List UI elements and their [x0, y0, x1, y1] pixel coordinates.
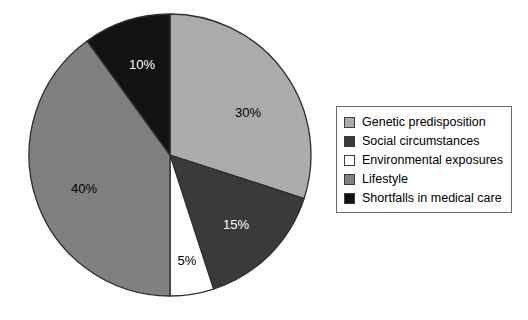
pie-chart-figure: 30%15%5%40%10% Genetic predisposition So… — [0, 0, 528, 320]
pie-slice-value-label: 40% — [71, 181, 97, 196]
pie-slice-value-label: 10% — [129, 57, 155, 72]
legend-item-label: Genetic predisposition — [362, 116, 486, 129]
pie-slice-group — [29, 14, 311, 296]
legend-swatch-icon — [344, 136, 355, 147]
pie-slice-value-label: 30% — [235, 105, 261, 120]
legend-swatch-icon — [344, 174, 355, 185]
legend-item-label: Environmental exposures — [362, 154, 503, 167]
chart-legend: Genetic predisposition Social circumstan… — [336, 106, 512, 213]
legend-swatch-icon — [344, 155, 355, 166]
legend-item[interactable]: Environmental exposures — [344, 151, 511, 170]
legend-item[interactable]: Shortfalls in medical care — [344, 189, 511, 208]
pie-slice-value-label: 15% — [223, 217, 249, 232]
legend-item[interactable]: Genetic predisposition — [344, 113, 511, 132]
legend-item-label: Shortfalls in medical care — [362, 192, 502, 205]
legend-item[interactable]: Lifestyle — [344, 170, 511, 189]
legend-item-label: Social circumstances — [362, 135, 479, 148]
pie-slice-value-label: 5% — [178, 253, 197, 268]
legend-item[interactable]: Social circumstances — [344, 132, 511, 151]
legend-item-label: Lifestyle — [362, 173, 408, 186]
legend-swatch-icon — [344, 117, 355, 128]
legend-swatch-icon — [344, 193, 355, 204]
